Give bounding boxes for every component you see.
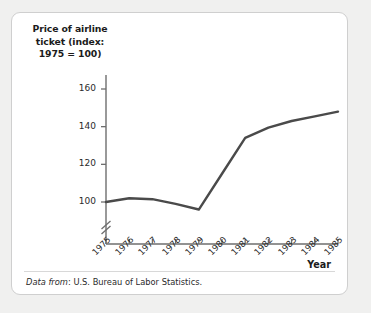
y-tick-label-120: 120	[70, 158, 96, 168]
y-tick-label-140: 140	[70, 121, 96, 131]
source-note-prefix: Data from	[26, 277, 68, 287]
chart-axes	[102, 75, 339, 244]
footer-divider	[24, 271, 335, 272]
line-chart-plot	[12, 13, 349, 296]
source-note: Data from: U.S. Bureau of Labor Statisti…	[26, 277, 202, 287]
y-tick-label-160: 160	[70, 83, 96, 93]
source-note-text: : U.S. Bureau of Labor Statistics.	[68, 277, 202, 287]
x-axis-title: Year	[307, 259, 331, 270]
data-series-line	[106, 112, 338, 210]
chart-figure: Price of airline ticket (index: 1975 = 1…	[11, 12, 348, 295]
y-tick-label-100: 100	[70, 196, 96, 206]
chart-ticks	[101, 89, 338, 244]
series-line-airline-price	[106, 112, 338, 210]
